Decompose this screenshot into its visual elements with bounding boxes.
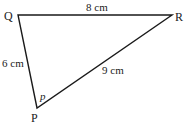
vertex-label-p: P [31, 111, 38, 124]
side-label-qp: 6 cm [2, 57, 24, 69]
side-label-pr: 9 cm [102, 64, 124, 76]
side-label-qr: 8 cm [86, 1, 108, 13]
vertex-label-r: R [175, 10, 183, 24]
vertex-label-q: Q [4, 9, 13, 23]
triangle-diagram: Q R P 8 cm 6 cm 9 cm p [0, 0, 184, 124]
angle-label-p: p [39, 90, 46, 102]
